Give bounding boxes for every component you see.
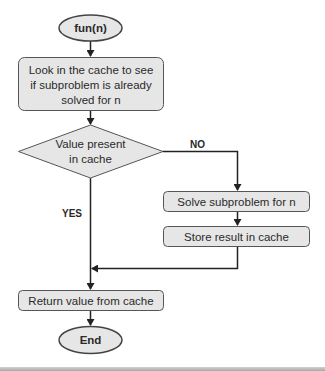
solve-label: Solve subproblem for n xyxy=(177,196,295,208)
decision-diamond xyxy=(19,125,164,178)
edge-label-no: NO xyxy=(190,139,205,150)
node-decision: Value present in cache xyxy=(19,125,164,178)
edge-label-yes: YES xyxy=(62,208,82,219)
decision-line-1: Value present xyxy=(55,138,126,150)
decision-line-2: in cache xyxy=(69,153,112,165)
edge-decision-no-to-solve xyxy=(163,152,238,191)
lookup-line-1: Look in the cache to see xyxy=(29,64,154,76)
store-label: Store result in cache xyxy=(184,231,289,243)
node-lookup: Look in the cache to see if subproblem i… xyxy=(19,58,164,111)
node-return: Return value from cache xyxy=(19,291,164,311)
lookup-line-2: if subproblem is already xyxy=(30,79,152,91)
bottom-divider xyxy=(0,367,325,371)
node-start: fun(n) xyxy=(59,15,122,41)
node-store: Store result in cache xyxy=(164,227,310,247)
end-label: End xyxy=(80,334,102,346)
return-label: Return value from cache xyxy=(28,295,153,307)
start-label: fun(n) xyxy=(74,22,107,34)
lookup-line-3: solved for n xyxy=(61,94,120,106)
flowchart-canvas: NO YES fun(n) Look in the cache to see i… xyxy=(0,0,325,371)
edge-store-to-merge xyxy=(92,247,238,269)
node-solve: Solve subproblem for n xyxy=(164,192,310,212)
node-end: End xyxy=(59,327,122,354)
